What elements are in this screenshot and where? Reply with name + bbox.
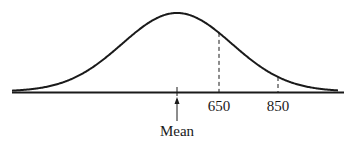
normal-curve-chart: 650 850 Mean — [0, 0, 349, 146]
tick-label-650: 650 — [208, 98, 231, 114]
tick-label-850: 850 — [267, 98, 290, 114]
arrow-up-icon — [175, 97, 180, 104]
mean-label: Mean — [160, 123, 195, 139]
normal-curve — [12, 13, 338, 91]
